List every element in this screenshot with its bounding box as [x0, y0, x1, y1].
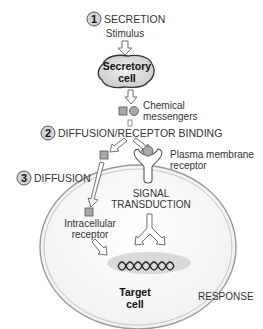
step-number: 2 — [45, 127, 51, 139]
split-arrow-left-icon — [110, 138, 127, 152]
step-label: DIFFUSION/RECEPTOR BINDING — [58, 127, 222, 139]
bound-messenger-icon — [143, 146, 153, 156]
target-cell-label-line2: cell — [126, 298, 144, 310]
stem-icon — [128, 120, 132, 126]
stimulus-label: Stimulus — [106, 28, 144, 39]
round-messenger-icon — [130, 107, 139, 116]
down-arrow-icon — [118, 41, 132, 55]
step-label: SECRETION — [104, 13, 165, 25]
signal-transduction-label-line2: TRANSDUCTION — [111, 199, 190, 210]
signal-transduction-label-line1: SIGNAL — [133, 188, 170, 199]
dna-region — [107, 252, 191, 274]
plasma-membrane-receptor: Plasma membrane receptor — [134, 146, 254, 183]
step-number: 1 — [91, 13, 97, 25]
step-3-diffusion: 3 DIFFUSION — [17, 171, 91, 185]
down-arrow-icon — [125, 90, 137, 104]
square-messenger-icon — [85, 208, 93, 216]
intracellular-receptor-label-line2: receptor — [72, 229, 109, 240]
square-messenger-icon — [100, 151, 108, 159]
response-label: RESPONSE — [198, 291, 254, 302]
secretory-cell-label-line1: Secretory — [103, 60, 152, 72]
step-2-diffusion-receptor-binding: 2 DIFFUSION/RECEPTOR BINDING — [41, 126, 222, 140]
chemical-messengers-label-line2: messengers — [143, 111, 197, 122]
secretory-cell-label-line2: cell — [118, 72, 136, 84]
secretory-cell: Secretory cell — [98, 55, 154, 87]
plasma-membrane-receptor-label-line1: Plasma membrane — [170, 149, 254, 160]
chemical-messengers-label-line1: Chemical — [143, 100, 185, 111]
target-cell-label-line1: Target — [119, 286, 151, 298]
signaling-diagram: 1 SECRETION Stimulus Secretory cell Chem… — [0, 0, 263, 329]
step-number: 3 — [21, 172, 27, 184]
plasma-membrane-receptor-label-line2: receptor — [170, 160, 207, 171]
intracellular-receptor-label-line1: Intracellular — [64, 218, 116, 229]
square-messenger-icon — [119, 107, 127, 115]
step-1-secretion: 1 SECRETION — [87, 12, 165, 26]
step-label: DIFFUSION — [34, 172, 91, 184]
